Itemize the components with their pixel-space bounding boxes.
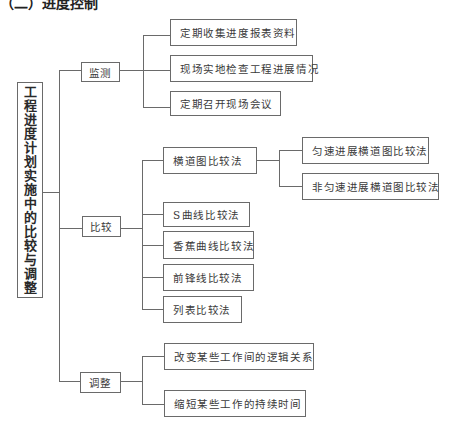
- connector: [142, 309, 163, 310]
- branch-monitor: 监测: [81, 62, 120, 82]
- connector: [121, 381, 142, 382]
- connector: [142, 214, 163, 215]
- node-label: 定期收集进度报表资料: [180, 25, 296, 40]
- connector: [142, 277, 163, 278]
- node-site-inspection: 现场实地检查工程进展情况: [170, 55, 313, 82]
- connector: [59, 70, 81, 71]
- connector: [279, 150, 280, 186]
- connector: [59, 381, 80, 382]
- connector: [143, 70, 170, 71]
- root-label: 工程进度计划实施中的比较与调整: [21, 85, 40, 295]
- node-label: 横道图比较法: [173, 153, 243, 168]
- node-label: 前锋线比较法: [173, 270, 243, 285]
- node-label: S曲线比较法: [173, 207, 240, 222]
- node-change-logic: 改变某些工作间的逻辑关系: [164, 343, 314, 370]
- node-label: 定期召开现场会议: [180, 96, 273, 111]
- node-table-method: 列表比较法: [163, 296, 242, 323]
- node-frontline-method: 前锋线比较法: [163, 264, 254, 291]
- branch-compare: 比较: [82, 216, 121, 237]
- node-banana-curve-method: 香蕉曲线比较法: [163, 231, 254, 259]
- connector: [142, 160, 163, 161]
- branch-adjust: 调整: [80, 372, 121, 393]
- branch-label: 调整: [89, 375, 112, 390]
- node-uniform-bar-chart: 匀速进展横道图比较法: [302, 137, 429, 164]
- branch-label: 比较: [90, 219, 113, 234]
- node-label: 缩短某些工作的持续时间: [174, 396, 302, 411]
- connector: [279, 150, 302, 151]
- connector: [121, 228, 142, 229]
- node-label: 香蕉曲线比较法: [173, 238, 254, 253]
- node-collect-reports: 定期收集进度报表资料: [170, 19, 297, 46]
- connector: [143, 35, 144, 107]
- connector: [143, 107, 170, 108]
- node-nonuniform-bar-chart: 非匀速进展横道图比较法: [302, 173, 439, 200]
- node-label: 非匀速进展横道图比较法: [312, 179, 440, 194]
- connector: [59, 70, 60, 381]
- root-node: 工程进度计划实施中的比较与调整: [17, 82, 43, 298]
- node-shorten-duration: 缩短某些工作的持续时间: [164, 390, 306, 417]
- node-site-meeting: 定期召开现场会议: [170, 91, 281, 116]
- connector: [142, 404, 164, 405]
- branch-label: 监测: [89, 65, 112, 80]
- connector: [142, 245, 163, 246]
- node-label: 改变某些工作间的逻辑关系: [174, 349, 313, 364]
- connector: [143, 35, 170, 36]
- page-title-fragment: （二）进度控制: [0, 0, 98, 12]
- connector: [279, 186, 302, 187]
- connector: [59, 228, 82, 229]
- connector: [43, 192, 59, 193]
- connector: [257, 160, 279, 161]
- node-s-curve-method: S曲线比较法: [163, 202, 250, 227]
- connector: [142, 356, 164, 357]
- node-label: 列表比较法: [173, 302, 231, 317]
- node-label: 匀速进展横道图比较法: [312, 143, 428, 158]
- node-bar-chart-method: 横道图比较法: [163, 147, 257, 174]
- node-label: 现场实地检查工程进展情况: [180, 61, 319, 76]
- connector: [120, 70, 143, 71]
- connector: [142, 160, 143, 310]
- connector: [142, 356, 143, 404]
